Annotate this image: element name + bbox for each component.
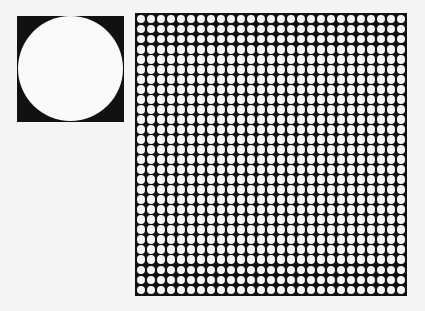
grid-circle [217,286,226,295]
grid-cell [246,205,256,215]
grid-circle [287,195,296,204]
single-circle-square [17,16,124,122]
grid-circle [187,266,196,275]
grid-cell [206,144,216,154]
grid-cell [306,144,316,154]
grid-cell [326,144,336,154]
grid-cell [196,265,206,275]
grid-cell [236,235,246,245]
grid-circle [317,135,326,144]
grid-circle [137,215,146,224]
grid-cell [146,205,156,215]
grid-circle [357,85,366,94]
grid-circle [367,45,376,54]
grid-cell [266,14,276,24]
grid-circle [397,125,406,134]
grid-cell [226,225,236,235]
grid-circle [137,115,146,124]
grid-cell [296,34,306,44]
grid-circle [177,175,186,184]
grid-cell [236,124,246,134]
grid-circle [277,195,286,204]
grid-cell [196,144,206,154]
grid-cell [266,154,276,164]
grid-cell [146,84,156,94]
grid-cell [276,215,286,225]
grid-cell [156,94,166,104]
grid-circle [297,185,306,194]
grid-cell [226,14,236,24]
grid-cell [396,205,406,215]
grid-cell [256,255,266,265]
grid-cell [256,165,266,175]
grid-cell [356,134,366,144]
grid-circle [307,135,316,144]
grid-circle [177,255,186,264]
grid-cell [396,64,406,74]
grid-cell [206,84,216,94]
grid-cell [246,94,256,104]
grid-cell [176,84,186,94]
grid-circle [147,245,156,254]
grid-cell [286,24,296,34]
grid-cell [236,255,246,265]
grid-cell [276,124,286,134]
grid-cell [226,255,236,265]
grid-circle [387,105,396,114]
grid-circle [357,55,366,64]
grid-circle [317,276,326,285]
grid-cell [266,245,276,255]
grid-cell [276,114,286,124]
grid-circle [147,225,156,234]
grid-circle [237,195,246,204]
grid-circle [227,255,236,264]
single-circle [18,16,123,121]
grid-circle [267,185,276,194]
grid-cell [206,44,216,54]
grid-circle [317,155,326,164]
grid-cell [356,14,366,24]
grid-circle [287,145,296,154]
grid-cell [236,24,246,34]
grid-cell [136,104,146,114]
grid-cell [256,175,266,185]
grid-circle [347,175,356,184]
grid-circle [337,75,346,84]
grid-cell [206,205,216,215]
grid-circle [287,25,296,34]
grid-cell [366,205,376,215]
grid-cell [396,185,406,195]
grid-cell [296,245,306,255]
grid-cell [286,104,296,114]
grid-cell [316,215,326,225]
grid-circle [337,95,346,104]
grid-cell [296,54,306,64]
grid-circle [247,225,256,234]
grid-circle [297,195,306,204]
grid-circle [237,155,246,164]
grid-circle [157,85,166,94]
grid-cell [306,225,316,235]
grid-circle [297,205,306,214]
grid-circle [377,105,386,114]
grid-cell [356,84,366,94]
grid-cell [326,285,336,295]
grid-circle [257,65,266,74]
grid-cell [136,34,146,44]
grid-circle [207,185,216,194]
grid-circle [387,205,396,214]
grid-cell [276,14,286,24]
grid-cell [136,165,146,175]
grid-circle [147,185,156,194]
grid-circle [287,215,296,224]
grid-cell [386,185,396,195]
grid-circle [177,195,186,204]
grid-circle [357,115,366,124]
grid-cell [276,144,286,154]
grid-circle [357,235,366,244]
grid-cell [226,235,236,245]
grid-circle [227,35,236,44]
grid-cell [286,64,296,74]
grid-cell [246,255,256,265]
grid-cell [156,124,166,134]
